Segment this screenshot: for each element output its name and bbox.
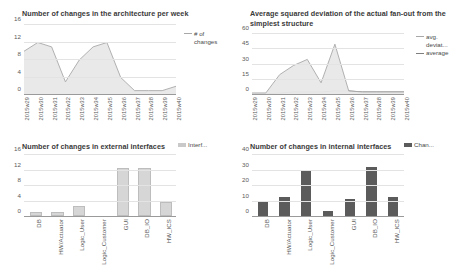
bar[interactable] <box>345 199 355 216</box>
x-axis-labels: DBHW/ActuatorLogic_UserLogic_CustomerGUI… <box>24 217 176 259</box>
x-axis-tick-label: 2015w40 <box>404 97 410 120</box>
x-axis-tick-label: HW_ICS <box>165 219 172 243</box>
gridline <box>24 154 176 155</box>
x-axis-tick-label: 2015w35 <box>335 97 341 120</box>
gridline <box>252 201 404 202</box>
y-axis-tick-label: 12 <box>0 160 21 167</box>
legend-item[interactable]: average <box>416 49 457 57</box>
bar-group <box>24 155 176 217</box>
y-axis-tick-label: 30 <box>223 54 249 61</box>
legend-swatch-icon <box>404 143 412 147</box>
chart-title-fanout: Average squared deviation of the actual … <box>250 9 453 28</box>
gridline <box>252 64 404 65</box>
chart-title-architecture: Number of changes in the architecture pe… <box>22 9 224 19</box>
bar[interactable] <box>301 171 311 216</box>
x-axis-tick-label: 2015w32 <box>65 97 71 120</box>
x-axis-tick-label: 2015w39 <box>162 97 168 120</box>
y-axis-tick-label: 4 <box>0 67 21 74</box>
gridline <box>24 42 176 43</box>
bar[interactable] <box>117 168 129 217</box>
x-axis-tick-label: HW_ICS <box>393 219 400 243</box>
legend-internal: Chan... <box>404 141 457 150</box>
y-axis-tick-label: 40 <box>223 145 249 152</box>
y-axis-tick-label: 15 <box>223 69 249 76</box>
x-axis-tick-label: Logic_Customer <box>328 219 335 265</box>
gridline <box>252 185 404 186</box>
gridline <box>24 201 176 202</box>
y-axis-tick-label: 0 <box>223 85 249 92</box>
y-axis-tick-label: 60 <box>223 24 249 31</box>
x-axis-tick-label: 2015w29 <box>24 97 30 120</box>
x-axis-tick-label: DB_IO <box>371 219 378 238</box>
y-axis-tick-label: 16 <box>0 145 21 152</box>
series-layer <box>24 25 176 95</box>
bar[interactable] <box>258 201 268 216</box>
bar[interactable] <box>73 206 85 216</box>
legend-item[interactable]: avg. deviat... <box>416 33 457 48</box>
x-axis-tick-label: Logic_User <box>78 219 85 251</box>
x-axis-tick-label: 2015w30 <box>38 97 44 120</box>
x-axis-tick-label: GUI <box>122 219 129 230</box>
y-axis-tick-label: 10 <box>223 191 249 198</box>
x-axis-tick-label: 2015w35 <box>107 97 113 120</box>
plot-area-architecture: 04812162015w292015w302015w312015w322015w… <box>24 25 176 95</box>
legend-line-icon <box>416 36 424 37</box>
gridline <box>252 33 404 34</box>
x-axis-tick-label: 2015w32 <box>293 97 299 120</box>
chart-panel-external: Number of changes in external interfaces… <box>0 140 228 277</box>
legend-swatch-icon <box>178 143 186 147</box>
x-axis-tick-label: 2015w31 <box>52 97 58 120</box>
y-axis-tick-label: 0 <box>0 85 21 92</box>
x-axis-labels: 2015w292015w302015w312015w322015w332015w… <box>252 95 404 137</box>
x-axis-tick-label: Logic_User <box>306 219 313 251</box>
gridline <box>252 170 404 171</box>
gridline <box>24 77 176 78</box>
x-axis-tick-label: 2015w38 <box>148 97 154 120</box>
legend-label: average <box>426 49 448 57</box>
y-axis-tick-label: 30 <box>223 160 249 167</box>
legend-fanout: avg. deviat... average <box>416 33 457 58</box>
x-axis-tick-label: 2015w30 <box>266 97 272 120</box>
legend-item[interactable]: Chan... <box>404 141 457 149</box>
x-axis-tick-label: 2015w34 <box>93 97 99 120</box>
chart-panel-fanout: Average squared deviation of the actual … <box>228 0 457 140</box>
x-axis-tick-label: 2015w34 <box>321 97 327 120</box>
y-axis-tick-label: 16 <box>0 15 21 22</box>
gridline <box>252 48 404 49</box>
plot-area-fanout: 0153045602015w292015w302015w312015w32201… <box>252 34 404 95</box>
x-axis-tick-label: 2015w37 <box>363 97 369 120</box>
x-axis-tick-label: DB <box>263 219 270 228</box>
x-axis-tick-label: 2015w33 <box>307 97 313 120</box>
y-axis-tick-label: 4 <box>0 191 21 198</box>
gridline <box>24 185 176 186</box>
x-axis-tick-label: 2015w36 <box>349 97 355 120</box>
legend-item[interactable]: # of changes <box>184 30 228 45</box>
y-axis-tick-label: 8 <box>0 50 21 57</box>
x-axis-tick-label: 2015w37 <box>135 97 141 120</box>
y-axis-tick-label: 0 <box>0 207 21 214</box>
legend-line-icon <box>184 33 192 34</box>
y-axis-tick-label: 20 <box>223 176 249 183</box>
bar[interactable] <box>160 202 172 216</box>
chart-panel-architecture: Number of changes in the architecture pe… <box>0 0 228 140</box>
series-layer <box>252 34 404 95</box>
dashboard: Number of changes in the architecture pe… <box>0 0 457 277</box>
chart-panel-internal: Number of changes in internal interfaces… <box>228 140 457 277</box>
legend-item[interactable]: Interf... <box>178 141 228 149</box>
bar[interactable] <box>366 167 376 216</box>
plot-area-external: 0481216DBHW/ActuatorLogic_UserLogic_Cust… <box>24 155 176 217</box>
legend-label: avg. deviat... <box>426 33 457 48</box>
gridline <box>24 170 176 171</box>
x-axis-labels: 2015w292015w302015w312015w322015w332015w… <box>24 95 176 137</box>
x-axis-tick-label: HW/Actuator <box>57 219 64 255</box>
y-axis-tick-label: 12 <box>0 32 21 39</box>
legend-label: Interf... <box>188 141 207 149</box>
x-axis-tick-label: 2015w39 <box>390 97 396 120</box>
y-axis-tick-label: 45 <box>223 39 249 46</box>
legend-line-icon <box>416 53 424 54</box>
x-axis-tick-label: Logic_Customer <box>100 219 107 265</box>
area-fill <box>24 43 176 96</box>
bar[interactable] <box>138 168 150 217</box>
x-axis-tick-label: 2015w31 <box>280 97 286 120</box>
x-axis-tick-label: 2015w29 <box>252 97 258 120</box>
